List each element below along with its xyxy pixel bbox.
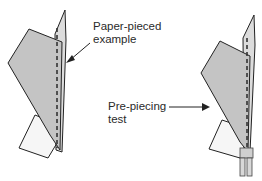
example-label-line1: Paper-pieced bbox=[93, 20, 161, 33]
test-arrow bbox=[169, 103, 210, 111]
paper-pieced-example-figure bbox=[8, 10, 66, 158]
example-arrow bbox=[66, 43, 90, 63]
thread-tails bbox=[240, 148, 253, 176]
test-label-line1: Pre-piecing bbox=[108, 100, 166, 113]
example-label: Paper-pieced example bbox=[93, 20, 161, 46]
test-label-line2: test bbox=[108, 113, 166, 126]
pre-piecing-test-figure bbox=[201, 15, 255, 176]
test-label: Pre-piecing test bbox=[108, 100, 166, 126]
example-label-line2: example bbox=[93, 33, 161, 46]
